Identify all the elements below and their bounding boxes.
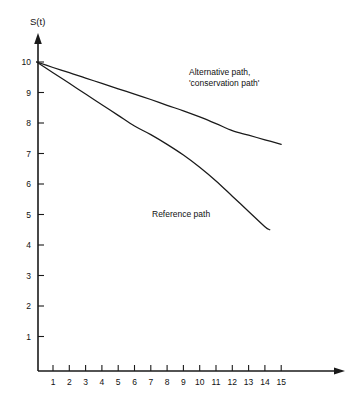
- x-tick-label: 6: [132, 377, 137, 387]
- reference-path-label: Reference path: [152, 209, 210, 219]
- y-tick-label: 4: [26, 240, 31, 250]
- y-axis-tick-labels: 10 9 8 7 6 5 4 3 2 1: [22, 57, 32, 342]
- y-tick-label: 1: [26, 332, 31, 342]
- x-tick-label: 1: [51, 377, 56, 387]
- x-tick-label: 8: [165, 377, 170, 387]
- chart-figure: S(t) 10 9 8 7 6 5 4 3 2 1: [0, 0, 364, 414]
- y-axis-title: S(t): [30, 16, 45, 27]
- x-tick-label: 11: [212, 377, 221, 387]
- x-tick-label: 10: [195, 377, 205, 387]
- x-tick-label: 2: [67, 377, 72, 387]
- alternative-path-label-line2: 'conservation path': [189, 78, 260, 88]
- x-tick-label: 13: [244, 377, 254, 387]
- x-tick-label: 3: [83, 377, 88, 387]
- x-tick-label: 9: [181, 377, 186, 387]
- chart-canvas: S(t) 10 9 8 7 6 5 4 3 2 1: [0, 0, 364, 414]
- x-axis-tick-labels: 1 2 3 4 5 6 7 8 9 10 11 12 13 14 15: [51, 377, 287, 387]
- y-tick-label: 5: [26, 210, 31, 220]
- x-tick-label: 12: [228, 377, 238, 387]
- y-tick-label: 10: [22, 57, 32, 67]
- x-tick-label: 4: [100, 377, 105, 387]
- y-axis-arrow-icon: [34, 33, 42, 44]
- x-axis-ticks: [53, 365, 281, 371]
- x-tick-label: 5: [116, 377, 121, 387]
- x-tick-label: 14: [260, 377, 270, 387]
- y-tick-label: 7: [26, 149, 31, 159]
- y-tick-label: 2: [26, 301, 31, 311]
- y-tick-label: 9: [26, 88, 31, 98]
- x-axis-arrow-icon: [334, 367, 345, 374]
- y-tick-label: 8: [26, 118, 31, 128]
- alternative-path-label-line1: Alternative path,: [189, 67, 250, 77]
- y-axis-ticks: [38, 62, 44, 337]
- y-tick-label: 3: [26, 271, 31, 281]
- x-tick-label: 7: [148, 377, 153, 387]
- y-tick-label: 6: [26, 179, 31, 189]
- x-tick-label: 15: [276, 377, 286, 387]
